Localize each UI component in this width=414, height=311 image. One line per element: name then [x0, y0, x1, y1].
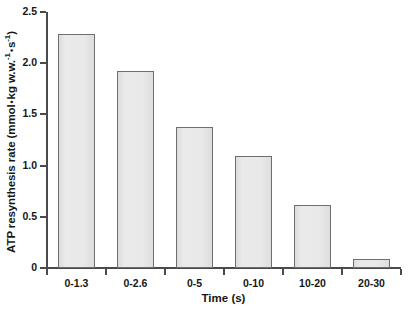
- x-tick-5: [341, 269, 343, 275]
- bar-chart: ATP resynthesis rate (mmol•kg w.w.-1•s-1…: [0, 0, 414, 311]
- y-axis-title: ATP resynthesis rate (mmol•kg w.w.-1•s-1…: [2, 6, 20, 278]
- x-tick-label-5: 20-30: [342, 277, 401, 289]
- y-axis-line: [46, 12, 48, 269]
- bar-2: [176, 127, 213, 268]
- y-tick-5: [40, 11, 46, 13]
- x-tick-label-2: 0-5: [165, 277, 224, 289]
- y-tick-1: [40, 216, 46, 218]
- bar-3: [235, 156, 272, 268]
- x-axis-title: Time (s): [46, 292, 401, 304]
- y-tick-4: [40, 62, 46, 64]
- bar-0: [58, 34, 95, 268]
- y-tick-label-1: 0.5: [11, 210, 37, 222]
- y-tick-label-2: 1.0: [11, 159, 37, 171]
- y-tick-label-3: 1.5: [11, 107, 37, 119]
- bar-1: [117, 71, 154, 268]
- x-tick-label-0: 0-1.3: [47, 277, 106, 289]
- bar-5: [353, 259, 390, 268]
- x-tick-4: [282, 269, 284, 275]
- x-tick-label-4: 10-20: [283, 277, 342, 289]
- y-tick-3: [40, 113, 46, 115]
- bar-4: [294, 205, 331, 268]
- y-axis-title-close: ): [5, 31, 17, 35]
- x-tick-6: [400, 269, 402, 275]
- x-tick-2: [164, 269, 166, 275]
- x-tick-label-3: 0-10: [224, 277, 283, 289]
- x-tick-label-1: 0-2.6: [106, 277, 165, 289]
- y-axis-title-tail: s: [5, 42, 17, 48]
- y-axis-title-sep-2: •: [7, 48, 17, 53]
- y-axis-title-sup-2: -1: [3, 35, 12, 42]
- y-axis-title-sep-1: •: [7, 99, 17, 104]
- y-axis-title-lead: ATP resynthesis rate (mmol: [5, 104, 17, 252]
- y-tick-label-0: 0: [11, 261, 37, 273]
- x-tick-0: [46, 269, 48, 275]
- y-tick-label-5: 2.5: [11, 5, 37, 17]
- x-tick-1: [105, 269, 107, 275]
- y-tick-2: [40, 165, 46, 167]
- x-tick-3: [223, 269, 225, 275]
- y-tick-label-4: 2.0: [11, 56, 37, 68]
